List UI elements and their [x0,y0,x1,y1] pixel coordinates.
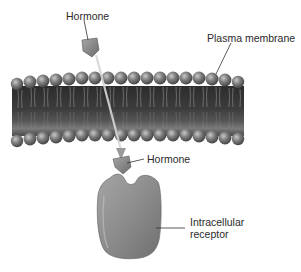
membrane-core [12,86,244,136]
leader-plasma-membrane [216,43,231,74]
label-plasma-membrane: Plasma membrane [207,32,295,44]
label-hormone-outside: Hormone [66,10,109,22]
label-receptor-line2: receptor [190,228,229,240]
hormone-receptor-diagram: Hormone Plasma membrane Hormone Intracel… [0,0,301,272]
hormone-molecule-outside [82,38,99,57]
plasma-membrane [11,72,244,148]
label-hormone-inside: Hormone [147,153,190,165]
leader-hormone-outside [84,20,88,40]
hormone-molecule-inside [113,156,131,174]
label-receptor-line1: Intracellular [190,216,244,228]
